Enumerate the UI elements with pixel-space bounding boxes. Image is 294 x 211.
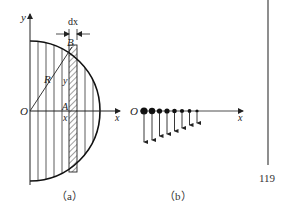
point-a-label: A xyxy=(61,101,69,112)
caption-a: （a） xyxy=(56,190,83,202)
radius-label: R xyxy=(43,73,51,85)
b-origin-label: O xyxy=(130,105,138,117)
point-mass-8 xyxy=(195,109,198,123)
point-mass-3 xyxy=(157,108,162,136)
point-mass-4 xyxy=(164,108,169,134)
origin-label: O xyxy=(20,105,28,117)
y-axis-label: y xyxy=(20,11,26,23)
figure-canvas: y x O B A R y x dx （a） O x xyxy=(0,0,294,211)
point-mass-6 xyxy=(180,109,184,128)
point-mass-2 xyxy=(149,108,155,140)
position-label: x xyxy=(62,112,68,123)
x-axis-label: x xyxy=(114,112,120,123)
page-number: 119 xyxy=(259,172,276,184)
figure-a: y x O B A R y x dx （a） xyxy=(20,11,120,202)
dx-label: dx xyxy=(68,16,78,27)
point-mass-7 xyxy=(188,109,192,125)
b-x-axis-label: x xyxy=(237,112,243,123)
height-label: y xyxy=(62,75,68,86)
caption-b: （b） xyxy=(164,190,192,202)
point-mass-1 xyxy=(140,107,147,142)
point-b-label: B xyxy=(67,36,74,48)
hatched-strip xyxy=(69,45,77,172)
point-mass-5 xyxy=(172,109,177,131)
figure-b: O x xyxy=(130,105,243,202)
